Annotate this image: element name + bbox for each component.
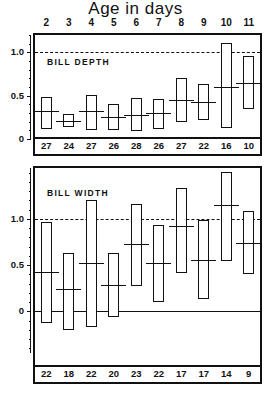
mean-marker xyxy=(169,226,194,227)
y-axis-label: 1.0 xyxy=(0,213,24,224)
y-axis-minor-tick xyxy=(29,237,32,238)
mean-marker xyxy=(236,83,260,84)
age-label: 11 xyxy=(238,17,260,28)
y-axis-minor-tick xyxy=(29,256,32,257)
y-axis-minor-tick xyxy=(29,61,32,62)
mean-marker xyxy=(191,260,216,261)
plot-area-bill-width: BILL WIDTH xyxy=(35,168,260,353)
figure-root: Age in days 234567891011 BILL DEPTH 2724… xyxy=(0,0,271,404)
y-axis-tick xyxy=(27,265,31,266)
sample-size-row-bill-width: 2218222023221717149 xyxy=(35,365,260,382)
mean-marker xyxy=(124,244,149,245)
mean-marker xyxy=(146,263,171,264)
sample-size: 17 xyxy=(193,368,215,379)
sample-size: 20 xyxy=(103,368,125,379)
sample-size: 10 xyxy=(238,140,260,151)
mean-marker xyxy=(56,289,81,290)
mean-marker xyxy=(169,100,194,101)
range-box xyxy=(221,172,232,262)
sample-size: 22 xyxy=(193,140,215,151)
mean-marker xyxy=(214,87,239,88)
y-axis-label: 0 xyxy=(0,305,24,316)
y-axis-minor-tick xyxy=(29,44,32,45)
y-axis-minor-tick xyxy=(29,78,32,79)
sample-size: 18 xyxy=(58,368,80,379)
mean-marker xyxy=(214,205,239,206)
sample-size: 22 xyxy=(35,368,57,379)
y-axis-minor-tick xyxy=(29,228,32,229)
y-axis-minor-tick xyxy=(29,173,32,174)
sample-size: 27 xyxy=(170,140,192,151)
age-label: 2 xyxy=(35,17,57,28)
sample-size: 26 xyxy=(148,140,170,151)
y-axis-minor-tick xyxy=(29,87,32,88)
age-label: 8 xyxy=(170,17,192,28)
y-axis-minor-tick xyxy=(29,35,32,36)
y-axis-tick xyxy=(27,52,31,53)
y-axis-minor-tick xyxy=(29,274,32,275)
sample-size: 24 xyxy=(58,140,80,151)
y-axis-minor-tick xyxy=(29,302,32,303)
y-axis-label: 0 xyxy=(0,133,24,144)
mean-marker xyxy=(236,243,260,244)
age-label: 10 xyxy=(215,17,237,28)
y-axis-label: 0.5 xyxy=(0,90,24,101)
range-box xyxy=(86,95,97,131)
y-axis-minor-tick xyxy=(29,247,32,248)
range-box xyxy=(63,253,74,330)
age-label: 6 xyxy=(125,17,147,28)
sample-size: 16 xyxy=(215,140,237,151)
sample-size: 28 xyxy=(125,140,147,151)
y-axis-minor-tick xyxy=(29,348,32,349)
mean-marker xyxy=(35,111,59,112)
sample-size: 27 xyxy=(35,140,57,151)
y-axis-tick xyxy=(27,96,31,97)
age-label: 5 xyxy=(103,17,125,28)
age-label: 4 xyxy=(80,17,102,28)
y-axis-minor-tick xyxy=(29,284,32,285)
sample-size: 17 xyxy=(170,368,192,379)
plot-area-bill-depth: BILL DEPTH xyxy=(35,35,260,139)
range-box xyxy=(153,99,164,129)
sample-size: 26 xyxy=(103,140,125,151)
y-axis-minor-tick xyxy=(29,293,32,294)
y-axis-minor-tick xyxy=(29,104,32,105)
y-axis-minor-tick xyxy=(29,330,32,331)
sample-size: 14 xyxy=(215,368,237,379)
y-axis-tick xyxy=(27,311,31,312)
y-axis-line xyxy=(30,168,31,353)
mean-marker xyxy=(146,113,171,114)
sample-size: 22 xyxy=(148,368,170,379)
panel-bill-width: BILL WIDTH 2218222023221717149 xyxy=(33,166,262,384)
y-axis-minor-tick xyxy=(29,182,32,183)
range-box xyxy=(176,188,187,272)
y-axis-minor-tick xyxy=(29,321,32,322)
age-axis-labels: 234567891011 xyxy=(33,17,262,31)
mean-marker xyxy=(79,263,104,264)
age-label: 7 xyxy=(148,17,170,28)
sample-size: 22 xyxy=(80,368,102,379)
age-label: 9 xyxy=(193,17,215,28)
mean-marker xyxy=(101,285,126,286)
sample-size: 23 xyxy=(125,368,147,379)
y-axis-minor-tick xyxy=(29,70,32,71)
age-label: 3 xyxy=(58,17,80,28)
y-axis-label: 1.0 xyxy=(0,46,24,57)
panel-label-bill-width: BILL WIDTH xyxy=(47,188,109,198)
range-box xyxy=(221,43,232,128)
y-axis-minor-tick xyxy=(29,339,32,340)
mean-marker xyxy=(79,111,104,112)
sample-size: 27 xyxy=(80,140,102,151)
panel-bill-depth: BILL DEPTH 27242726282627221610 xyxy=(33,33,262,156)
mean-marker xyxy=(35,272,59,273)
y-axis-minor-tick xyxy=(29,130,32,131)
range-box xyxy=(131,204,142,286)
sample-size: 9 xyxy=(238,368,260,379)
mean-marker xyxy=(56,121,81,122)
mean-marker xyxy=(191,102,216,103)
mean-marker xyxy=(124,115,149,116)
y-axis-minor-tick xyxy=(29,113,32,114)
y-axis-tick xyxy=(27,219,31,220)
y-axis-minor-tick xyxy=(29,210,32,211)
range-box xyxy=(41,97,52,129)
